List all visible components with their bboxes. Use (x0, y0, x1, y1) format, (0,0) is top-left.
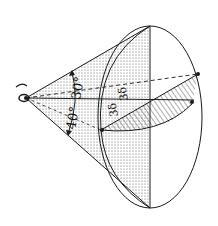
upper-value-label: 3δ (116, 86, 131, 102)
cone-of-vision-diagram: 30° 40° 3δ 3δ (0, 0, 218, 226)
point-lower (100, 128, 104, 132)
lower-value-label: 3δ (106, 102, 121, 118)
point-right (190, 100, 194, 104)
point-upper-right (196, 72, 200, 76)
eye-icon (16, 84, 29, 101)
